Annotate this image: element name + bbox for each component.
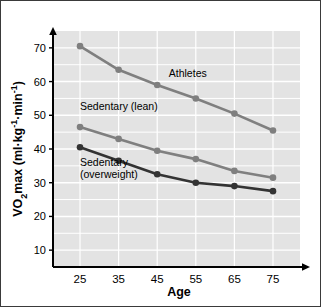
figure-container: 10203040506070 253545556575 AthletesSede… [0, 0, 321, 307]
x-tick-label: 45 [151, 273, 164, 285]
y-title-close-paren: ) [11, 81, 25, 85]
svg-text:VO2max (ml·kg-1·min-1): VO2max (ml·kg-1·min-1) [9, 81, 29, 217]
y-title-superscript-2: -1 [9, 85, 19, 93]
y-tick-label: 70 [34, 42, 46, 54]
y-tick-label: 60 [34, 76, 46, 88]
x-tick-label: 25 [74, 273, 87, 285]
data-point-marker [231, 183, 238, 190]
y-title-min: min [11, 93, 25, 115]
data-point-marker [270, 127, 277, 134]
annotation-line-2: (overweight) [80, 168, 138, 180]
data-point-marker [77, 43, 84, 50]
x-tick-label: 35 [112, 273, 125, 285]
x-tick-label: 55 [189, 273, 202, 285]
data-point-marker [192, 156, 199, 163]
vo2max-age-line-chart: 10203040506070 253545556575 AthletesSede… [1, 1, 321, 307]
data-point-marker [192, 179, 199, 186]
series-annotation-0: Athletes [169, 67, 207, 79]
data-point-marker [231, 168, 238, 175]
data-point-marker [154, 82, 161, 89]
y-axis-ticks: 10203040506070 [34, 42, 53, 256]
y-axis-title: VO2max (ml·kg-1·min-1) [9, 81, 29, 217]
data-point-marker [270, 188, 277, 195]
data-point-marker [115, 66, 122, 73]
y-tick-label: 10 [34, 244, 46, 256]
data-point-marker [154, 147, 161, 154]
x-axis-arrow-icon [302, 263, 310, 271]
x-tick-label: 65 [228, 273, 241, 285]
data-point-marker [77, 124, 84, 131]
data-point-marker [270, 174, 277, 181]
y-tick-label: 20 [34, 210, 46, 222]
y-tick-label: 50 [34, 109, 46, 121]
x-tick-label: 75 [267, 273, 280, 285]
x-axis-title: Age [167, 285, 191, 299]
data-point-marker [192, 95, 199, 102]
y-title-mid: max (ml [11, 147, 25, 194]
x-axis-ticks: 253545556575 [74, 273, 280, 285]
data-point-marker [115, 136, 122, 143]
data-point-marker [231, 110, 238, 117]
data-point-marker [77, 144, 84, 151]
series-annotation-1: Sedentary (lean) [80, 100, 158, 112]
y-tick-label: 40 [34, 143, 46, 155]
data-point-marker [154, 171, 161, 178]
y-title-prefix: VO [11, 199, 25, 217]
y-tick-label: 30 [34, 177, 46, 189]
annotation-line-1: Sedentary [80, 156, 129, 168]
y-title-kg: kg [11, 128, 25, 143]
y-title-superscript-1: -1 [9, 120, 19, 128]
